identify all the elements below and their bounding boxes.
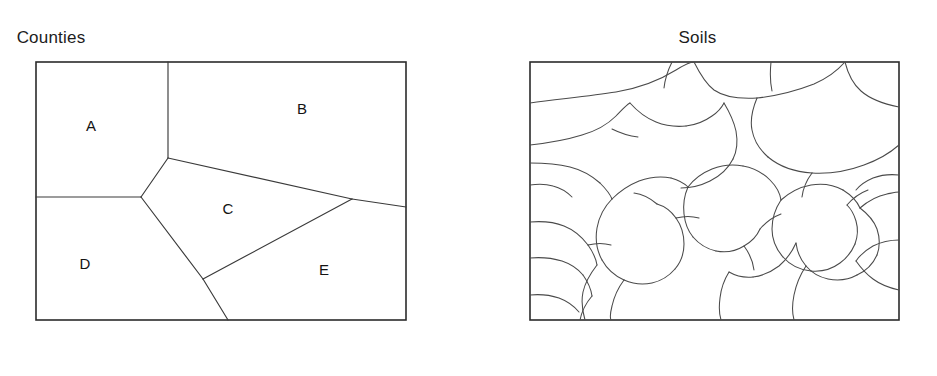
figure-root: Counties ABCDE Soils [0, 0, 937, 376]
soils-map [0, 0, 937, 376]
panel-soils: Soils [470, 0, 937, 376]
